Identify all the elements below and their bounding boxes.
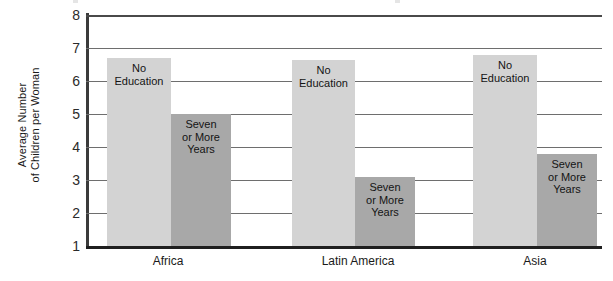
- gridline-8: [86, 15, 602, 17]
- y-axis-title-line-1: Average Number: [15, 67, 28, 182]
- y-tick-label-5: 5: [56, 107, 80, 121]
- bar-label-line-2: or More: [355, 194, 415, 207]
- bar-chart: Average Number of Children per Woman 8 7…: [0, 0, 613, 281]
- bar-label-line-1: Seven: [171, 118, 231, 131]
- bar-label-no-education: No Education: [473, 55, 537, 84]
- x-category-label-latin-america: Latin America: [308, 254, 408, 268]
- x-category-label-asia: Asia: [490, 254, 580, 268]
- y-tick-label-2: 2: [56, 206, 80, 220]
- y-axis-title-line-2: of Children per Woman: [28, 67, 41, 182]
- gridline-7: [86, 48, 602, 49]
- bar-label-seven-or-more-years: Seven or More Years: [171, 114, 231, 156]
- y-tick-label-4: 4: [56, 140, 80, 154]
- y-axis-title: Average Number of Children per Woman: [0, 0, 56, 250]
- bar-asia-no-education[interactable]: No Education: [473, 55, 537, 246]
- bar-label-seven-or-more-years: Seven or More Years: [355, 177, 415, 219]
- bar-asia-seven-or-more-years[interactable]: Seven or More Years: [537, 154, 597, 246]
- scan-artifact: [73, 0, 78, 3]
- bar-label-line-3: Years: [537, 183, 597, 196]
- bar-label-line-2: Education: [107, 75, 171, 88]
- y-tick-label-7: 7: [56, 41, 80, 55]
- bar-label-no-education: No Education: [107, 58, 171, 87]
- bar-label-line-2: or More: [171, 131, 231, 144]
- bar-label-line-1: Seven: [355, 181, 415, 194]
- bar-label-line-2: Education: [292, 77, 355, 90]
- bar-label-line-1: No: [107, 62, 171, 75]
- plot-area: No Education Seven or More Years No Educ…: [86, 15, 602, 246]
- bar-label-line-2: Education: [473, 72, 537, 85]
- bar-africa-seven-or-more-years[interactable]: Seven or More Years: [171, 114, 231, 246]
- bar-label-line-1: No: [292, 64, 355, 77]
- bar-label-line-3: Years: [355, 206, 415, 219]
- bar-africa-no-education[interactable]: No Education: [107, 58, 171, 246]
- y-tick-label-8: 8: [56, 8, 80, 22]
- bar-label-line-1: No: [473, 59, 537, 72]
- x-axis-baseline: [86, 246, 602, 249]
- y-tick-label-1: 1: [56, 239, 80, 253]
- bar-label-line-3: Years: [171, 143, 231, 156]
- bar-label-line-2: or More: [537, 171, 597, 184]
- y-tick-label-3: 3: [56, 173, 80, 187]
- bar-latin-america-seven-or-more-years[interactable]: Seven or More Years: [355, 177, 415, 246]
- bar-latin-america-no-education[interactable]: No Education: [292, 60, 355, 246]
- x-category-label-africa: Africa: [123, 254, 213, 268]
- bar-label-line-1: Seven: [537, 158, 597, 171]
- y-tick-label-6: 6: [56, 74, 80, 88]
- bar-label-seven-or-more-years: Seven or More Years: [537, 154, 597, 196]
- bar-label-no-education: No Education: [292, 60, 355, 89]
- scan-artifact: [395, 0, 400, 3]
